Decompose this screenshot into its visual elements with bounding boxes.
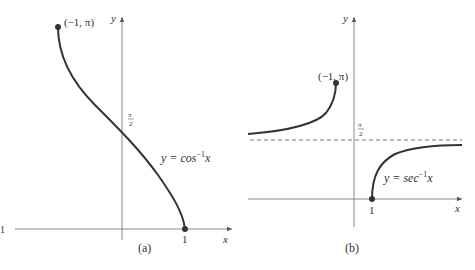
panel-label-b: (b) — [345, 241, 359, 255]
y-axis-label-a: y — [110, 12, 116, 24]
curve-label-b-y: y = sec−1x — [383, 170, 433, 185]
point-label-b: (−1, π) — [318, 70, 348, 83]
point-1-0-a — [182, 226, 188, 232]
arcsec-left-branch — [248, 83, 336, 134]
pi-half-num-b: π — [358, 121, 362, 129]
edge-label-1-a: 1 — [0, 224, 5, 235]
point-1-0-b — [369, 196, 375, 202]
point-neg1-pi-a — [55, 24, 61, 30]
pi-half-den-b: 2 — [359, 130, 363, 138]
x-axis-label-a: x — [222, 233, 228, 245]
pi-half-den-a: 2 — [129, 120, 133, 128]
pi-half-num-a: π — [128, 111, 132, 119]
x-tick-1-a: 1 — [182, 233, 188, 245]
panel-b: (−1, π) y π 2 y = sec−1x 1 x (b) — [248, 12, 462, 255]
panel-label-a: (a) — [138, 241, 151, 255]
panel-a: (−1, π) y π 2 y = cos−1x 1 x 1 (a) — [0, 12, 232, 255]
x-axis-label-b: x — [454, 202, 460, 214]
figure-canvas: (−1, π) y π 2 y = cos−1x 1 x 1 (a) (−1, … — [0, 0, 475, 270]
point-label-a: (−1, π) — [64, 16, 94, 29]
y-axis-label-b: y — [342, 12, 348, 24]
x-tick-1-b: 1 — [369, 204, 375, 216]
curve-label-a-y: y = cos−1x — [160, 150, 211, 165]
